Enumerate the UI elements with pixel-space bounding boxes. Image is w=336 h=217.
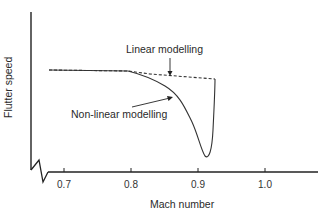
flutter-chart: Linear modelling Non-linear modelling 0.…	[0, 0, 336, 217]
annotation-arrow-nonlinear	[132, 98, 170, 107]
axis-break-icon	[31, 160, 48, 182]
x-tick-label: 0.9	[191, 179, 205, 190]
x-tick-label: 1.0	[258, 179, 272, 190]
arrow-head-icon	[167, 96, 173, 101]
annotation-nonlinear-modelling: Non-linear modelling	[71, 108, 167, 120]
x-axis-title: Mach number	[150, 198, 214, 210]
series-linear-modelling	[49, 70, 215, 79]
annotation-linear-modelling: Linear modelling	[126, 43, 203, 55]
x-tick-label: 0.8	[124, 179, 138, 190]
chart-plot-area	[0, 0, 336, 217]
x-tick-label: 0.7	[57, 179, 71, 190]
y-axis-title: Flutter speed	[2, 57, 14, 118]
